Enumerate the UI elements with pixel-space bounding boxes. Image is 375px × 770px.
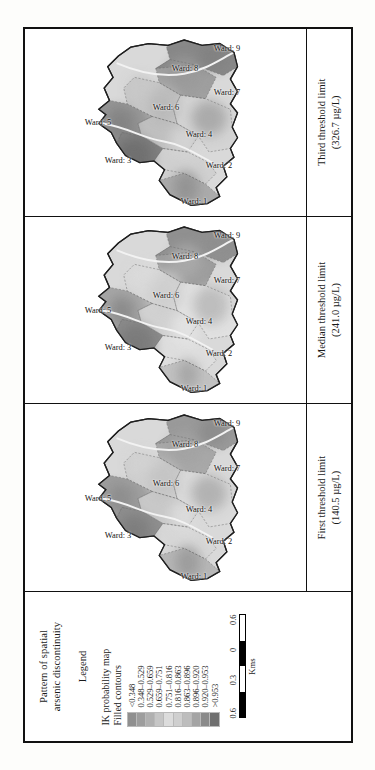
legend-swatch-row: 0.529–0.659 xyxy=(145,606,154,728)
probability-map-surface xyxy=(25,217,306,404)
legend-swatch-row: 0.896–0.920 xyxy=(191,606,200,728)
legend-panel: Pattern of spatial arsenic discontinuity… xyxy=(25,591,351,741)
scale-bar-tick: 0.6 xyxy=(229,708,238,718)
legend-heading: Legend xyxy=(77,651,88,683)
legend-swatch-row: 0.816–0.863 xyxy=(173,606,182,728)
scale-bar-segment xyxy=(240,641,245,667)
legend-swatch-label: 0.896–0.920 xyxy=(191,666,201,708)
legend-swatch-label: 0.920–0.953 xyxy=(200,666,210,708)
figure-title-line1: Pattern of spatial xyxy=(37,622,50,711)
map-caption-first-line1: First threshold limit xyxy=(315,456,329,539)
probability-map-surface xyxy=(25,29,306,216)
legend-swatch-label: <0.348 xyxy=(126,684,136,708)
scale-bar-unit: Kms xyxy=(247,658,257,674)
legend-subtitle-line1: IK probability map xyxy=(100,608,112,726)
map-caption-third-line2: (326.7 µg/L) xyxy=(329,95,343,149)
figure-frame: Pattern of spatial arsenic discontinuity… xyxy=(23,27,353,743)
legend-swatch-row: 0.659–0.751 xyxy=(154,606,163,728)
probability-map-surface xyxy=(25,404,306,591)
map-caption-median-line1: Median threshold limit xyxy=(315,262,329,358)
legend-swatch-row: 0.920–0.953 xyxy=(200,606,209,728)
scale-bar-tick: 0.3 xyxy=(229,675,238,685)
map-area-third: Ward: 1Ward: 2Ward: 3Ward: 4Ward: 5Ward:… xyxy=(25,29,306,216)
legend-swatch-label: 0.529–0.659 xyxy=(145,666,155,708)
legend-subtitle: IK probability map Filled contours xyxy=(100,608,124,726)
legend-swatch-list: <0.3480.348–0.5290.529–0.6590.659–0.7510… xyxy=(127,606,219,728)
map-caption-third: Third threshold limit (326.7 µg/L) xyxy=(306,29,351,216)
legend-swatch-label: 0.751–0.816 xyxy=(163,666,173,708)
legend-swatch-row: 0.863–0.896 xyxy=(182,606,191,728)
scale-bar: 0.60.300.6 Kms xyxy=(229,604,257,730)
figure-title-line2: arsenic discontinuity xyxy=(50,622,63,711)
legend-swatch-row: <0.348 xyxy=(127,606,136,728)
map-panel-median: Ward: 1Ward: 2Ward: 3Ward: 4Ward: 5Ward:… xyxy=(25,216,351,404)
legend-swatch-row: 0.348–0.529 xyxy=(136,606,145,728)
legend-swatch-label: 0.348–0.529 xyxy=(136,666,146,708)
legend-swatch xyxy=(209,713,219,728)
scale-bar-tick: 0 xyxy=(229,648,238,652)
legend-subtitle-line2: Filled contours xyxy=(112,608,124,726)
map-area-median: Ward: 1Ward: 2Ward: 3Ward: 4Ward: 5Ward:… xyxy=(25,217,306,404)
figure-title: Pattern of spatial arsenic discontinuity xyxy=(37,622,63,711)
legend-swatch-label: 0.659–0.751 xyxy=(154,666,164,708)
scale-bar-segments xyxy=(239,615,246,719)
scale-bar-segment xyxy=(240,667,245,693)
map-caption-first-line2: (140.5 µg/L) xyxy=(329,471,343,525)
scale-bar-segment xyxy=(240,616,245,642)
scale-bar-tick: 0.6 xyxy=(229,615,238,625)
map-caption-third-line1: Third threshold limit xyxy=(315,79,329,167)
map-caption-first: First threshold limit (140.5 µg/L) xyxy=(306,404,351,591)
legend-swatch-row: >0.953 xyxy=(209,606,218,728)
legend-swatch-label: 0.816–0.863 xyxy=(172,666,182,708)
map-caption-median: Median threshold limit (241.0 µg/L) xyxy=(306,217,351,404)
map-panel-third: Ward: 1Ward: 2Ward: 3Ward: 4Ward: 5Ward:… xyxy=(25,29,351,216)
scale-bar-ticks: 0.60.300.6 xyxy=(229,615,238,719)
legend-swatch-label: 0.863–0.896 xyxy=(181,666,191,708)
map-panel-first: Ward: 1Ward: 2Ward: 3Ward: 4Ward: 5Ward:… xyxy=(25,403,351,591)
map-caption-median-line2: (241.0 µg/L) xyxy=(329,283,343,337)
legend-swatch-row: 0.751–0.816 xyxy=(164,606,173,728)
legend-swatch-label: >0.953 xyxy=(209,684,219,708)
map-area-first: Ward: 1Ward: 2Ward: 3Ward: 4Ward: 5Ward:… xyxy=(25,404,306,591)
scale-bar-segment xyxy=(240,692,245,718)
